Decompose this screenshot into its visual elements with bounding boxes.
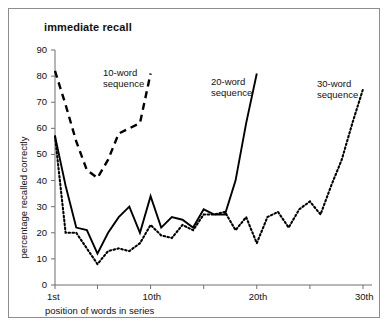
series-line-3 [55,89,363,264]
y-tick-label: 30 [23,201,47,212]
chart-title: immediate recall [44,21,132,33]
y-tick-label: 70 [23,96,47,107]
series-annotation: 20-wordsequence [211,76,252,98]
y-tick-label: 10 [23,253,47,264]
series-annotation: 30-wordsequence [317,78,358,100]
y-tick-label: 60 [23,122,47,133]
y-tick-marks [51,50,55,285]
x-tick-label: 30th [355,291,374,302]
y-tick-label: 40 [23,175,47,186]
series-annotation-line2: sequence [317,89,358,100]
chart-figure: immediate recall percentage recalled cor… [0,0,390,328]
series-annotation-line2: sequence [211,87,252,98]
series-annotation-line1: 30-word [317,78,358,89]
plot-area [0,0,390,328]
series-annotation-line2: sequence [103,78,144,89]
x-tick-label: 20th [249,291,268,302]
x-axis-label: position of words in series [45,305,154,316]
y-tick-label: 90 [23,44,47,55]
x-tick-label: 1st [47,291,60,302]
y-tick-label: 20 [23,227,47,238]
series-annotation-line1: 10-word [103,67,144,78]
series-annotation-line1: 20-word [211,76,252,87]
y-tick-label: 80 [23,70,47,81]
x-tick-marks [55,285,363,289]
y-tick-label: 0 [23,279,47,290]
x-tick-label: 10th [143,291,162,302]
series-annotation: 10-wordsequence [103,67,144,89]
y-tick-label: 50 [23,148,47,159]
